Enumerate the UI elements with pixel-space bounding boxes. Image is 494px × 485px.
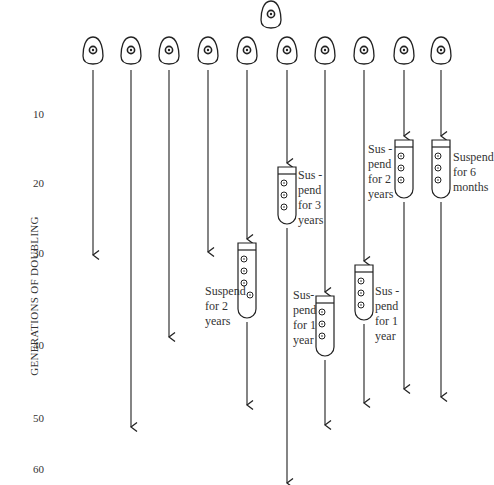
cell-icon-5 <box>237 37 257 64</box>
parent-cell-icon <box>261 1 281 28</box>
cell-icon-8 <box>354 37 374 64</box>
cell-icon-10 <box>431 37 451 64</box>
test-tube-icon-10 <box>432 140 450 198</box>
y-tick-20: 20 <box>33 177 44 189</box>
test-tube-icon-7 <box>316 296 334 356</box>
cell-icon-6 <box>277 37 297 64</box>
test-tube-icon-8 <box>355 265 373 320</box>
y-tick-30: 30 <box>33 247 44 259</box>
note-suspend-1-year-col7: Sus- pend for 1 year <box>293 288 316 348</box>
note-suspend-1-year-col8: Sus - pend for 1 year <box>375 284 399 344</box>
cell-icon-1 <box>83 37 103 64</box>
note-suspend-3-years: Sus - pend for 3 years <box>298 168 323 228</box>
y-tick-60: 60 <box>33 463 44 475</box>
cell-icon-9 <box>394 37 414 64</box>
cell-icon-7 <box>315 37 335 64</box>
note-suspend-6-months: Suspend for 6 months <box>453 150 494 195</box>
cell-icon-3 <box>159 37 179 64</box>
y-axis-label: GENERATIONS OF DOUBLING <box>28 196 40 396</box>
test-tube-icon-9 <box>395 140 413 198</box>
note-suspend-2-years-col9: Sus - pend for 2 years <box>368 142 393 202</box>
cell-icon-4 <box>198 37 218 64</box>
cell-icon-2 <box>121 37 141 64</box>
y-tick-50: 50 <box>33 412 44 424</box>
y-tick-40: 40 <box>33 339 44 351</box>
test-tube-icon-6 <box>278 167 296 224</box>
note-suspend-2-years-col5: Suspend for 2 years <box>205 284 246 329</box>
y-tick-10: 10 <box>33 108 44 120</box>
